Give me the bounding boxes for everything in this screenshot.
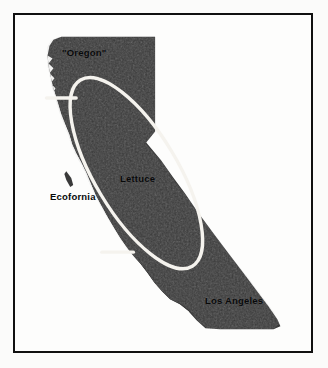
region-label-ecofornia: Ecofornia (50, 191, 96, 202)
region-label-lettuce: Lettuce (120, 173, 155, 184)
region-label-los-angeles: Los Angeles (205, 295, 263, 306)
region-label-oregon: "Oregon" (62, 47, 106, 58)
figure-frame: "Oregon" Ecofornia Lettuce Los Angeles (13, 13, 313, 353)
map-figure: "Oregon" Ecofornia Lettuce Los Angeles (0, 0, 328, 368)
california-map-graphic (15, 15, 311, 351)
